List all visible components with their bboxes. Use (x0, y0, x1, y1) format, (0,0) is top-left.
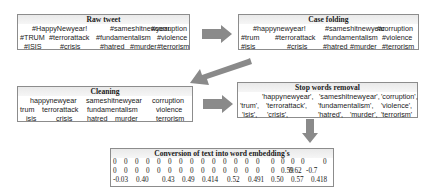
embedding-row-1: 0 0 0 0 0 0 0 0 0 0 0 0 0 0 0 0 0 0 0 (111, 158, 333, 167)
token: #murder (130, 42, 157, 51)
value: 0 (256, 158, 260, 167)
value: 0 (256, 167, 260, 176)
token: 'isis', (242, 110, 257, 119)
value: 0 (157, 167, 161, 176)
value: 0 (271, 158, 275, 167)
token: 'terrorism' (381, 110, 412, 119)
stop-words-row-3: 'isis', 'crisis', 'hatred', 'murder', 't… (238, 110, 417, 119)
cleaning-row-2: trum terrorattack fundamentalism violenc… (18, 105, 192, 114)
arrow-right-icon (202, 25, 232, 43)
value: 0 (190, 158, 194, 167)
token: 'terrorattack', (266, 101, 307, 110)
raw-tweet-title: Raw tweet (18, 15, 189, 24)
token: #violence (157, 33, 187, 42)
value: 0 (245, 158, 249, 167)
token: #violence (382, 33, 412, 42)
token: #fundamentalism (323, 33, 378, 42)
token: #corruption (151, 24, 187, 33)
token: crisis (56, 114, 72, 123)
token: 'happynewyear', (262, 92, 314, 101)
token: terrorattack (42, 105, 78, 114)
value: 0 (135, 158, 139, 167)
cleaning-row-1: happynewyear sameshitnewyear corruption (18, 96, 192, 105)
value: 0 (168, 158, 172, 167)
value: 0 (245, 167, 249, 176)
token: #hatred (323, 42, 347, 51)
token: sameshitnewyear (86, 96, 142, 105)
token: #HappyNewyear! (32, 24, 87, 33)
token: trum (20, 105, 34, 114)
value: 0.50 (271, 176, 284, 185)
raw-tweet-row-1: #HappyNewyear! #sameshitnewyear #corrupt… (18, 24, 189, 33)
raw-tweet-row-3: #ISIS #crisis #hatred #murder #terrorism (18, 42, 189, 51)
token: #TRUM (20, 33, 45, 42)
stop-words-box: Stop words removal 'happynewyear', 'same… (237, 82, 418, 118)
value: 0 (179, 167, 183, 176)
value: 0 (212, 158, 216, 167)
value: 0 (146, 158, 150, 167)
token: #terrorism (382, 42, 414, 51)
embedding-row-3: -0.03 0.40 0.43 0.49 0.414 0.52 0.491 0.… (111, 176, 333, 185)
token: fundamentalism (87, 105, 138, 114)
arrow-right-icon (203, 95, 233, 113)
token: happynewyear (30, 96, 77, 105)
value: 0.49 (182, 176, 195, 185)
value: 0 (113, 167, 117, 176)
value: 0 (201, 167, 205, 176)
value: 0 (157, 158, 161, 167)
value: 0 (135, 167, 139, 176)
token: #sameshitnewyear (325, 24, 385, 33)
value: 0.414 (202, 176, 218, 185)
token: #corruption (377, 24, 413, 33)
case-folding-row-3: #isis #crisis #hatred #murder #terrorism (239, 42, 418, 51)
value: 0.62 (289, 167, 302, 176)
value: 0 (291, 158, 295, 167)
value: 0.52 (227, 176, 240, 185)
cleaning-row-3: isis crisis hatred murder terrorism (18, 114, 192, 123)
value: 0 (190, 167, 194, 176)
token: isis (26, 114, 36, 123)
token: #isis (241, 42, 255, 51)
stop-words-title: Stop words removal (238, 83, 417, 92)
value: 0.43 (162, 176, 175, 185)
case-folding-box: Case folding #happynewyear! #sameshitnew… (238, 14, 419, 50)
token: corruption (152, 96, 184, 105)
value: 0 (234, 158, 238, 167)
value: 0.57 (291, 176, 304, 185)
token: #ISIS (24, 42, 42, 51)
token: #terrorattack (275, 33, 315, 42)
value: 0 (146, 167, 150, 176)
token: #hatred (100, 42, 124, 51)
token: #terrorattack (49, 33, 89, 42)
cleaning-box: Cleaning happynewyear sameshitnewyear co… (17, 86, 193, 122)
token: violence (156, 105, 182, 114)
value: 0 (234, 167, 238, 176)
value: 0 (124, 158, 128, 167)
value: -0.7 (306, 167, 317, 176)
value: 0 (179, 158, 183, 167)
token: 'hatred', (318, 110, 343, 119)
token: terrorism (156, 114, 184, 123)
token: 'crisis', (267, 110, 288, 119)
embedding-row-2: 0 0 0 0 0 0 0 0 0 0 0 0 0 0 0 0.59 0.62 … (111, 167, 333, 176)
case-folding-title: Case folding (239, 15, 418, 24)
token: 'violence', (381, 101, 412, 110)
stop-words-row-2: 'trum', 'terrorattack', 'fundamentalism'… (238, 101, 417, 110)
token: #terrorism (157, 42, 189, 51)
token: #murder (350, 42, 377, 51)
value: 0 (271, 167, 275, 176)
token: 'fundamentalism', (318, 101, 373, 110)
token: 'sameshitnewyear', (319, 92, 380, 101)
token: #fundamentalism (96, 33, 151, 42)
value: 0 (168, 167, 172, 176)
token: 'corruption', (381, 92, 418, 101)
arrow-down-icon (302, 119, 318, 143)
value: 0 (113, 158, 117, 167)
case-folding-row-1: #happynewyear! #sameshitnewyear #corrupt… (239, 24, 418, 33)
value: -0.03 (113, 176, 128, 185)
token: #crisis (60, 42, 80, 51)
case-folding-row-2: #trum #terrorattack #fundamentalism #vio… (239, 33, 418, 42)
embedding-box: Conversion of text into word embedding's… (110, 148, 334, 187)
token: #crisis (287, 42, 307, 51)
token: 'murder', (350, 110, 378, 119)
